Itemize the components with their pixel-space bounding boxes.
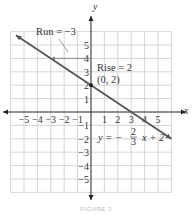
equation-lhs: y = −: [97, 132, 122, 143]
figure-caption: FIGURE 3: [80, 206, 112, 212]
y-tick-label: 1: [84, 94, 89, 105]
y-tick-label: 4: [84, 53, 89, 64]
x-tick-label: 3: [129, 114, 134, 125]
equation-label: y = − 2 3 x + 2: [97, 126, 165, 147]
x-tick-label: 2: [115, 114, 120, 125]
y-tick-label: 3: [84, 67, 89, 78]
y-tick-label: −1: [78, 120, 89, 131]
x-tick-label: −2: [59, 114, 70, 125]
y-axis-label: y: [92, 1, 98, 12]
data-point: [89, 83, 93, 87]
x-tick-label: −3: [45, 114, 56, 125]
y-tick-label: −3: [78, 147, 89, 158]
y-tick-label: −4: [78, 161, 89, 172]
y-tick-label: 5: [84, 40, 89, 51]
x-tick-label: −5: [19, 114, 30, 125]
point-label: (0, 2): [97, 74, 120, 86]
x-axis-label: x: [183, 105, 189, 116]
axes: [3, 16, 186, 200]
run-pointer: [59, 39, 68, 52]
x-tick-label: 5: [156, 114, 161, 125]
x-tick-label: 1: [102, 114, 107, 125]
run-annotation: Run = −3: [36, 26, 76, 37]
y-tick-label: −5: [78, 174, 89, 185]
y-tick-label: −2: [78, 134, 89, 145]
x-tick-label: −4: [32, 114, 43, 125]
y-axis-arrow-down: [89, 195, 94, 200]
equation-rhs: x + 2: [141, 132, 165, 143]
y-axis-arrow-up: [89, 16, 94, 21]
chart: −5−4−3−2−11234554321−1−2−3−4−5 y x Run =…: [0, 0, 193, 215]
rise-annotation: Rise = 2: [97, 62, 132, 73]
x-axis-arrow-left: [3, 110, 8, 115]
equation-denominator: 3: [131, 136, 136, 147]
